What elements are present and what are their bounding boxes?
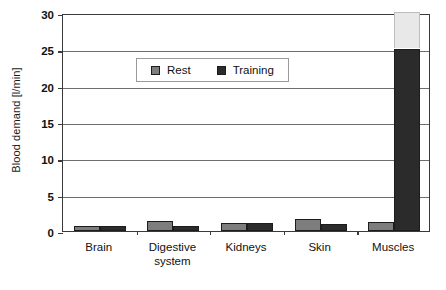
y-axis-tick-label: 0 [48,227,54,239]
y-axis-tick-label: 5 [48,191,54,203]
y-axis-tick [58,233,63,234]
bar-pair [63,15,137,231]
bar-group [357,15,431,231]
bar-training-muscles [394,49,420,231]
bar-group [284,15,358,231]
y-axis-tick-label: 20 [41,82,54,94]
x-axis-label-line: Skin [283,240,357,254]
bar-group [137,15,211,231]
bar-rest-brain [74,226,100,231]
bar-chart: Blood demand [l/min] 051015202530 BrainD… [0,0,446,290]
x-axis-label-line: Kidneys [209,240,283,254]
bar-pair [210,15,284,231]
bar-training-digestive-system [173,226,199,231]
y-axis-tick-label: 30 [41,9,54,21]
bar-training-brain [100,226,126,231]
x-axis-label-brain: Brain [62,240,136,254]
x-axis-label-line: Digestive [136,240,210,254]
legend-label: Rest [167,64,191,76]
bar-pair [284,15,358,231]
y-axis-tick-label: 25 [41,45,54,57]
x-axis-label-line: Brain [62,240,136,254]
bar-rest-kidneys [221,223,247,231]
legend-swatch-rest [151,66,160,75]
bar-rest-muscles [368,222,394,231]
y-axis-tick-label: 10 [41,154,54,166]
plot-area: 051015202530 [62,14,430,232]
bar-group [63,15,137,231]
bar-rest-digestive-system [147,221,173,231]
bar-pair [137,15,211,231]
x-axis-label-kidneys: Kidneys [209,240,283,254]
bar-pair [357,15,431,231]
bar-training-skin [321,224,347,231]
chart-legend: RestTraining [136,58,289,82]
bar-training-kidneys [247,223,273,231]
x-axis-label-muscles: Muscles [356,240,430,254]
x-axis-tick [210,231,211,235]
x-axis-tick [284,231,285,235]
y-axis-tick-label: 15 [41,118,54,130]
bar-rest-skin [295,219,321,231]
x-axis-tick [357,231,358,235]
x-axis-label-skin: Skin [283,240,357,254]
legend-item-rest: Rest [151,64,191,76]
x-axis-label-line: Muscles [356,240,430,254]
x-axis-label-line: system [136,254,210,268]
legend-swatch-training [217,66,226,75]
x-axis-label-digestive-system: Digestivesystem [136,240,210,268]
x-axis-tick [137,231,138,235]
bar-group [210,15,284,231]
legend-item-training: Training [217,64,274,76]
y-axis-title: Blood demand [l/min] [5,4,27,236]
bar-overflow-cap [394,12,420,48]
legend-label: Training [233,64,274,76]
